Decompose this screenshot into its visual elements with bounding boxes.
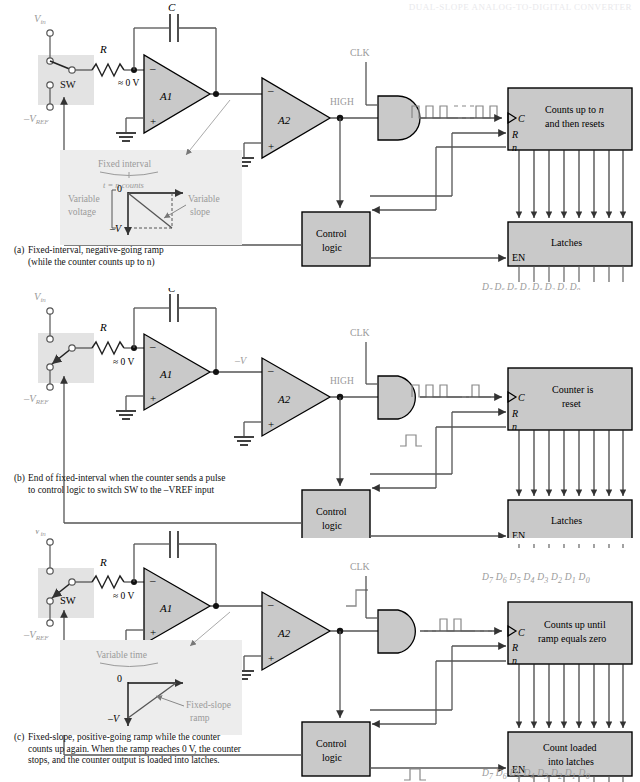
- caption-c-line3: stops, and the counter output is loaded …: [28, 755, 354, 767]
- inset-top-label-c: Variable time: [96, 650, 147, 660]
- svg-text:–: –: [149, 62, 156, 74]
- svg-text:–: –: [267, 84, 274, 96]
- resistor-r: [92, 64, 124, 76]
- svg-text:–: –: [267, 598, 274, 610]
- pulse-train-c: [424, 619, 500, 631]
- inset-zero-c: 0: [117, 673, 122, 684]
- zero-v-label-c: ≈ 0 V: [113, 591, 135, 601]
- counter-line2-c: ramp equals zero: [538, 633, 606, 644]
- a2-label: A2: [277, 114, 291, 126]
- svg-text:A2: A2: [277, 627, 291, 639]
- svg-text:n: n: [512, 655, 517, 666]
- counter-line2: and then resets: [545, 118, 605, 129]
- svg-text:C: C: [518, 627, 525, 638]
- node-a1-out: [213, 91, 219, 97]
- svg-text:A1: A1: [159, 602, 172, 614]
- clk-label-c: CLK: [350, 561, 370, 572]
- inset-left2: voltage: [68, 207, 96, 217]
- vin-label-c: Vin: [34, 530, 46, 538]
- inset-top-label: Fixed interval: [98, 159, 151, 169]
- svg-text:+: +: [268, 140, 274, 152]
- caption-c-line2: counts up again. When the ramp reaches 0…: [28, 744, 354, 756]
- latch-line2-c: into latches: [548, 756, 594, 767]
- counter-line1-c: Counts up until: [544, 619, 606, 630]
- caption-c-line1: Fixed-slope, positive-going ramp while t…: [28, 732, 220, 742]
- data-labels-row-c: D7 D6 D5 D4 D3 D2 D1 D0: [482, 768, 590, 781]
- panel-a: Vin SW –VREF R ≈ 0 V C: [0, 0, 640, 290]
- pulse-train: [412, 106, 501, 118]
- inset-right1-c: Fixed-slope: [186, 700, 231, 710]
- panel-c: Vin SW –VREF R ≈ 0 V – + A1: [0, 530, 640, 782]
- caption-c-prefix: (c): [14, 732, 28, 744]
- caption-a-line2: (while the counter counts up to n): [28, 257, 274, 269]
- latches-label: Latches: [551, 237, 582, 248]
- a1-label: A1: [159, 90, 172, 102]
- inset-left1: Variable: [68, 194, 100, 204]
- vref-label-c: –VREF: [23, 629, 49, 642]
- clk-label: CLK: [350, 47, 370, 58]
- inset-right2-c: ramp: [190, 713, 210, 723]
- resistor-r-c: [92, 576, 124, 588]
- svg-text:R: R: [511, 642, 518, 653]
- r-label: R: [99, 43, 107, 55]
- latch-outputs: [519, 266, 623, 282]
- figure-page: DUAL-SLOPE ANALOG-TO-DIGITAL CONVERTER: [0, 0, 640, 782]
- control-logic-block: [302, 212, 370, 266]
- caption-a-prefix: (a): [14, 245, 28, 257]
- counter-line1: Counts up to n: [545, 104, 604, 115]
- zero-v-label: ≈ 0 V: [118, 78, 140, 88]
- inset-negv-c: –V: [107, 713, 121, 724]
- data-bus-c: [519, 664, 623, 728]
- switch-region-c: [38, 568, 94, 618]
- counter-n-input: n: [512, 142, 517, 153]
- vref-label: –VREF: [23, 113, 49, 126]
- en-label: EN: [512, 252, 525, 263]
- counter-r-input: R: [511, 129, 518, 140]
- svg-text:+: +: [268, 652, 274, 664]
- inset-zero: 0: [117, 183, 122, 194]
- sw-label: SW: [60, 79, 76, 90]
- caption-c: (c)Fixed-slope, positive-going ramp whil…: [14, 732, 354, 767]
- c-label: C: [168, 1, 176, 13]
- data-bus: [519, 150, 623, 218]
- latch-line1-c: Count loaded: [543, 742, 597, 753]
- svg-text:+: +: [150, 626, 156, 638]
- control-logic-line1: Control: [316, 228, 347, 239]
- en-pulse-c: [404, 769, 426, 780]
- inset-graph-c: [60, 640, 242, 735]
- svg-text:R: R: [99, 556, 107, 568]
- sw-label-c: SW: [60, 595, 76, 606]
- inset-right1: Variable: [188, 194, 220, 204]
- and-gate: [378, 96, 420, 140]
- and-gate-c: [378, 610, 415, 653]
- inset-sub-label: t = n counts: [103, 180, 145, 190]
- svg-text:–: –: [149, 574, 156, 586]
- panel-b-data-labels: [0, 288, 640, 548]
- caption-a-line1: Fixed-interval, negative-going ramp: [28, 245, 164, 255]
- caption-a: (a)Fixed-interval, negative-going ramp (…: [14, 245, 274, 268]
- vin-label: Vin: [34, 13, 46, 26]
- counter-c-input: C: [518, 113, 525, 124]
- step-waveform-c: [346, 590, 368, 606]
- inset-right2: slope: [190, 207, 210, 217]
- high-label: HIGH: [330, 97, 354, 107]
- svg-text:+: +: [150, 115, 156, 127]
- vin-terminal: [47, 30, 53, 36]
- control-logic-line2: logic: [322, 242, 343, 253]
- ground-a1: [116, 133, 136, 141]
